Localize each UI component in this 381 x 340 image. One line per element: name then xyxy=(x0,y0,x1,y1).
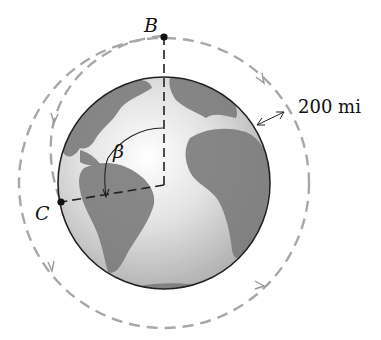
label-b: B xyxy=(143,14,158,36)
label-beta: β xyxy=(112,140,124,162)
orbit-diagram: B C β 200 mi xyxy=(0,0,381,340)
label-c: C xyxy=(35,202,50,224)
point-c-marker xyxy=(57,198,64,205)
direction-arrow-icon xyxy=(256,73,264,83)
point-b-marker xyxy=(160,33,167,40)
label-altitude: 200 mi xyxy=(298,96,361,117)
